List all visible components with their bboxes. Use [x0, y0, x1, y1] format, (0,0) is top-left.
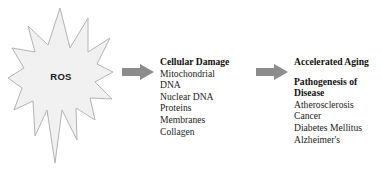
- list-item: Alzheimer's: [294, 134, 381, 146]
- list-item: Membranes: [160, 114, 255, 126]
- ros-node-label: ROS: [41, 71, 81, 82]
- list-item: DNA: [160, 79, 255, 91]
- list-item: Collagen: [160, 126, 255, 138]
- list-item: Nuclear DNA: [160, 91, 255, 103]
- list-item: Mitochondrial: [160, 68, 255, 80]
- column-accelerated-aging: Accelerated Aging Pathogenesis of Diseas…: [294, 56, 381, 145]
- heading-pathogenesis-line1: Pathogenesis of: [294, 76, 381, 88]
- list-item: Diabetes Mellitus: [294, 122, 381, 134]
- diagram-canvas: ROS Cellular Damage Mitochondrial DNA Nu…: [0, 0, 381, 185]
- ros-starburst-shape: [0, 0, 125, 175]
- list-item: Atherosclerosis: [294, 99, 381, 111]
- arrow-ros-to-cellular-damage-icon: [120, 63, 156, 81]
- column-spacer: [294, 68, 381, 76]
- heading-pathogenesis-line2: Disease: [294, 87, 381, 99]
- list-item: Proteins: [160, 102, 255, 114]
- column-cellular-damage: Cellular Damage Mitochondrial DNA Nuclea…: [160, 56, 255, 137]
- list-pathogenesis-diseases: Atherosclerosis Cancer Diabetes Mellitus…: [294, 99, 381, 145]
- heading-accelerated-aging: Accelerated Aging: [294, 56, 381, 68]
- list-cellular-damage: Mitochondrial DNA Nuclear DNA Proteins M…: [160, 68, 255, 138]
- list-item: Cancer: [294, 110, 381, 122]
- heading-cellular-damage: Cellular Damage: [160, 56, 255, 68]
- arrow-cellular-damage-to-aging-icon: [254, 63, 290, 81]
